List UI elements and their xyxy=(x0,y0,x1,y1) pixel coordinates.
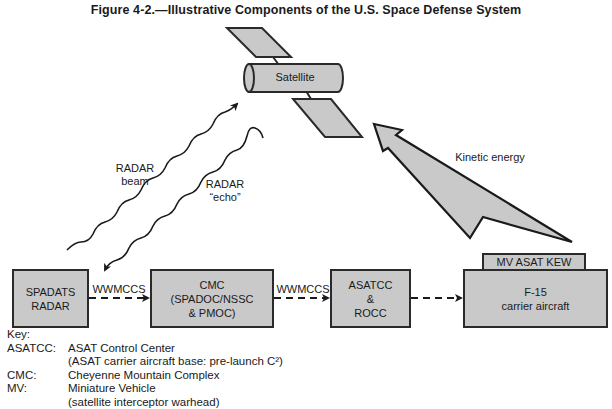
key-heading: Key: xyxy=(7,328,283,342)
radar-beam-label-line1: RADAR xyxy=(110,162,160,175)
wwmccs-label-1: WWMCCS xyxy=(90,283,148,296)
key-entry: (satellite interceptor warhead) xyxy=(7,396,283,409)
spadats-radar-box: SPADATS RADAR xyxy=(12,269,89,328)
solar-panel-top xyxy=(227,28,291,57)
key-text: Cheyenne Mountain Complex xyxy=(68,369,220,383)
carrier-aircraft-label: carrier aircraft xyxy=(502,299,570,313)
cmc-box: CMC (SPADOC/NSSC & PMOC) xyxy=(150,269,274,328)
solar-panel-bottom xyxy=(293,99,362,137)
asatcc-rocc-box: ASATCC & ROCC xyxy=(330,269,411,328)
radar-echo-label-line1: RADAR xyxy=(200,178,250,191)
key-abbr: MV: xyxy=(7,382,68,396)
radar-label: RADAR xyxy=(31,299,70,313)
key-text: ASAT Control Center xyxy=(68,342,175,356)
asatcc-label: ASATCC xyxy=(349,278,393,292)
key-abbr xyxy=(7,396,68,409)
spadoc-nssc-label: (SPADOC/NSSC xyxy=(171,292,254,306)
key-abbr: CMC: xyxy=(7,369,68,383)
radar-beam-label: RADAR beam xyxy=(110,162,160,188)
key-legend: Key: ASATCC: ASAT Control Center (ASAT c… xyxy=(7,328,283,409)
key-entry: MV: Miniature Vehicle xyxy=(7,382,283,396)
key-abbr xyxy=(7,355,68,369)
rocc-label: ROCC xyxy=(354,306,386,320)
pmoc-label: & PMOC) xyxy=(188,306,235,320)
key-entry: (ASAT carrier aircraft base: pre-launch … xyxy=(7,355,283,369)
ampersand-label: & xyxy=(367,292,374,306)
key-text: (ASAT carrier aircraft base: pre-launch … xyxy=(68,355,283,369)
wwmccs-label-2: WWMCCS xyxy=(275,283,331,296)
f15-label: F-15 xyxy=(524,285,547,299)
cmc-label: CMC xyxy=(199,278,224,292)
key-text: Miniature Vehicle xyxy=(68,382,156,396)
key-entry: ASATCC: ASAT Control Center xyxy=(7,342,283,356)
key-text: (satellite interceptor warhead) xyxy=(68,396,220,409)
radar-echo-label-line2: “echo” xyxy=(200,191,250,204)
key-entry: CMC: Cheyenne Mountain Complex xyxy=(7,369,283,383)
key-abbr: ASATCC: xyxy=(7,342,68,356)
radar-echo-label: RADAR “echo” xyxy=(200,178,250,204)
satellite-label: Satellite xyxy=(268,71,322,84)
kinetic-energy-arrow xyxy=(374,124,572,242)
mv-asat-kew-label: MV ASAT KEW xyxy=(497,255,572,269)
spadats-label: SPADATS xyxy=(26,285,76,299)
radar-beam-label-line2: beam xyxy=(110,175,160,188)
kinetic-energy-label: Kinetic energy xyxy=(450,151,530,164)
f15-carrier-box: F-15 carrier aircraft xyxy=(463,269,608,328)
